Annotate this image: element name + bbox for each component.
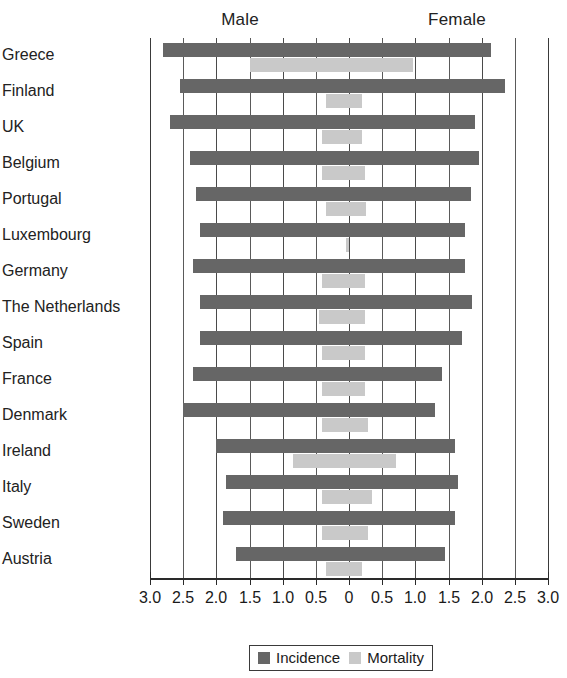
country-label-italy: Italy [2,479,143,495]
incidence-bar-france [193,367,442,381]
mortality-bar-sweden [322,526,368,540]
axis-end-cap [548,572,549,580]
axis-tick [515,578,516,585]
country-label-luxembourg: Luxembourg [2,227,143,243]
country-label-germany: Germany [2,263,143,279]
legend-swatch-incidence [258,652,270,664]
country-label-austria: Austria [2,551,143,567]
legend-label: Incidence [276,649,340,666]
country-label-sweden: Sweden [2,515,143,531]
category-axis-labels: GreeceFinlandUKBelgiumPortugalLuxembourg… [0,38,146,578]
country-label-uk: UK [2,119,143,135]
incidence-bar-denmark [183,403,435,417]
bar-row [150,542,548,578]
incidence-bar-italy [226,475,458,489]
axis-tick-label: 3.0 [528,589,567,607]
country-label-spain: Spain [2,335,143,351]
mortality-bar-luxembourg [346,238,349,252]
bar-row [150,182,548,218]
bar-row [150,398,548,434]
bar-row [150,290,548,326]
mortality-bar-france [322,382,365,396]
incidence-bar-portugal [196,187,471,201]
plot-area [150,38,548,578]
axis-tick [449,578,450,585]
country-label-finland: Finland [2,83,143,99]
axis-tick [216,578,217,585]
axis-tick [482,578,483,585]
incidence-bar-belgium [190,151,479,165]
mortality-bar-denmark [322,418,368,432]
male-axis-header: Male [204,10,276,30]
incidence-bar-spain [200,331,462,345]
incidence-bar-greece [163,43,491,57]
bar-row [150,218,548,254]
mortality-bar-belgium [322,166,365,180]
mortality-bar-finland [326,94,362,108]
legend-swatch-mortality [349,652,361,664]
mortality-bar-the-netherlands [319,310,365,324]
incidence-bar-luxembourg [200,223,465,237]
mortality-bar-italy [322,490,372,504]
axis-tick [349,578,350,585]
legend-item-incidence: Incidence [258,649,340,666]
axis-tick [316,578,317,585]
axis-tick [250,578,251,585]
country-label-portugal: Portugal [2,191,143,207]
bar-row [150,362,548,398]
mortality-bar-austria [326,562,362,576]
country-label-ireland: Ireland [2,443,143,459]
country-label-france: France [2,371,143,387]
mortality-bar-ireland [293,454,396,468]
bar-row [150,110,548,146]
bar-row [150,470,548,506]
legend-label: Mortality [367,649,424,666]
bar-row [150,74,548,110]
bar-row [150,326,548,362]
axis-tick [415,578,416,585]
female-axis-header: Female [421,10,493,30]
country-label-belgium: Belgium [2,155,143,171]
mortality-bar-portugal [326,202,366,216]
axis-tick [382,578,383,585]
axis-tick [183,578,184,585]
country-label-the-netherlands: The Netherlands [2,299,143,315]
incidence-bar-ireland [216,439,455,453]
gridline-3 [548,38,549,578]
chart-container: Male Female GreeceFinlandUKBelgiumPortug… [0,0,567,678]
incidence-bar-the-netherlands [200,295,472,309]
mortality-bar-greece [250,58,413,72]
legend-item-mortality: Mortality [349,649,424,666]
incidence-bar-sweden [223,511,455,525]
axis-end-cap [150,572,151,580]
mortality-bar-spain [322,346,365,360]
country-label-denmark: Denmark [2,407,143,423]
incidence-bar-germany [193,259,465,273]
bar-row [150,254,548,290]
mortality-bar-germany [322,274,365,288]
mortality-bar-uk [322,130,362,144]
bar-row [150,434,548,470]
incidence-bar-finland [180,79,505,93]
bar-row [150,38,548,74]
chart-legend: IncidenceMortality [249,645,433,671]
incidence-bar-austria [236,547,445,561]
bar-row [150,146,548,182]
country-label-greece: Greece [2,47,143,63]
axis-tick [283,578,284,585]
incidence-bar-uk [170,115,475,129]
bar-row [150,506,548,542]
